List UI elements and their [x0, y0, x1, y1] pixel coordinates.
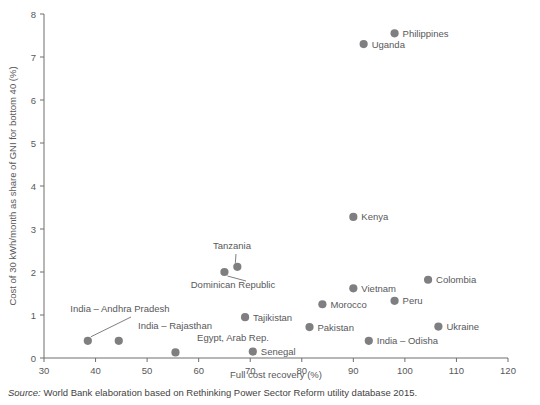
data-point-marker	[434, 323, 442, 331]
data-point-marker	[424, 276, 432, 284]
y-axis-tick-label: 1	[31, 310, 36, 321]
source-note: Source: World Bank elaboration based on …	[8, 386, 538, 399]
data-point-label: Philippines	[403, 28, 449, 39]
scatter-chart: 30405060708090100110120012345678 Philipp…	[0, 0, 540, 380]
data-point: India – Odisha	[365, 335, 439, 346]
data-point: Tanzania	[213, 240, 252, 271]
data-point-marker	[305, 323, 313, 331]
label-leader-line	[91, 317, 131, 337]
x-axis-tick-label: 30	[39, 365, 50, 376]
y-axis-title: Cost of 30 kWh/month as share of GNI for…	[7, 66, 18, 305]
data-point: Ukraine	[434, 321, 479, 332]
data-point-label: Uganda	[372, 39, 406, 50]
y-axis-tick-label: 7	[31, 52, 36, 63]
data-point: Senegal	[249, 346, 296, 357]
y-axis-tick-label: 4	[31, 181, 36, 192]
data-point: Uganda	[360, 39, 406, 50]
data-point-label: Colombia	[436, 274, 477, 285]
source-label: Source:	[8, 387, 41, 398]
data-point-marker	[390, 29, 398, 37]
data-point-marker	[84, 337, 92, 345]
data-point-label: Morocco	[330, 299, 366, 310]
x-axis-tick-label: 90	[348, 365, 359, 376]
data-point-label: Dominican Republic	[191, 279, 276, 290]
data-point-label: Vietnam	[361, 283, 396, 294]
x-axis-tick-label: 110	[449, 365, 464, 376]
y-axis-tick-label: 0	[31, 353, 36, 364]
label-leader-line	[235, 254, 236, 263]
data-point-label: Ukraine	[446, 321, 479, 332]
x-axis-tick-label: 50	[142, 365, 153, 376]
x-axis-title: Full cost recovery (%)	[230, 369, 322, 380]
data-point-marker	[115, 337, 123, 345]
data-point: Vietnam	[349, 283, 396, 294]
data-point: Tajikistan	[241, 312, 292, 323]
data-point-marker	[390, 297, 398, 305]
data-point-marker	[360, 40, 368, 48]
data-point-marker	[349, 213, 357, 221]
data-point-label: Pakistan	[318, 322, 354, 333]
y-axis-tick-label: 8	[31, 9, 36, 20]
data-point: Dominican Republic	[191, 268, 276, 290]
plot-canvas: 30405060708090100110120012345678 Philipp…	[0, 0, 540, 380]
y-axis-tick-label: 3	[31, 224, 36, 235]
data-point: Kenya	[349, 211, 389, 222]
x-axis-tick-label: 100	[397, 365, 413, 376]
y-axis-tick-label: 2	[31, 267, 36, 278]
data-point-marker	[233, 263, 241, 271]
data-point-marker	[318, 300, 326, 308]
data-point: Philippines	[390, 28, 448, 39]
data-point-label: India – Odisha	[377, 335, 439, 346]
data-point: Morocco	[318, 299, 367, 310]
data-point: Pakistan	[305, 322, 354, 333]
data-point-marker	[220, 268, 228, 276]
data-point-marker	[171, 348, 179, 356]
data-point: Colombia	[424, 274, 477, 285]
data-point-label: Tanzania	[213, 240, 252, 251]
data-point-marker	[365, 337, 373, 345]
data-point-label: Senegal	[261, 346, 296, 357]
data-series: PhilippinesUgandaKenyaColombiaVietnamPer…	[70, 28, 479, 357]
data-point-label: Kenya	[361, 211, 389, 222]
x-axis-tick-label: 40	[90, 365, 101, 376]
data-point: Peru	[390, 295, 422, 306]
data-point-label: Peru	[403, 295, 423, 306]
x-axis-tick-label: 120	[500, 365, 516, 376]
data-point-marker	[241, 313, 249, 321]
data-point-label: India – Andhra Pradesh	[70, 303, 169, 314]
data-point-marker	[349, 284, 357, 292]
y-axis-tick-label: 6	[31, 95, 36, 106]
source-text: World Bank elaboration based on Rethinki…	[41, 387, 417, 398]
x-axis-tick-label: 60	[193, 365, 204, 376]
y-axis-tick-label: 5	[31, 138, 36, 149]
data-point-label: India – Rajasthan	[138, 320, 212, 331]
data-point-label: Egypt, Arab Rep.	[197, 332, 269, 343]
data-point-marker	[249, 347, 257, 355]
data-point-label: Tajikistan	[253, 312, 292, 323]
